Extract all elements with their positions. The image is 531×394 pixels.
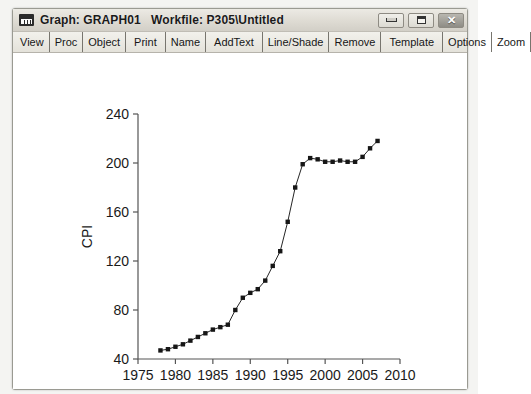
y-axis-tick-label: 160 [106,204,130,220]
toolbar-button-addtext[interactable]: AddText [206,32,263,52]
series-marker [263,278,267,282]
series-marker [196,335,200,339]
series-marker [166,347,170,351]
series-marker [286,220,290,224]
toolbar-button-template[interactable]: Template [381,32,443,52]
y-axis-tick-label: 120 [106,253,130,269]
series-line-cpi [160,141,377,350]
maximize-icon [417,16,426,24]
y-axis-tick-label: 200 [106,155,130,171]
x-axis-tick-label: 1995 [272,367,303,383]
close-icon: ✕ [447,15,456,26]
minimize-icon [386,18,397,22]
y-axis-tick-label: 240 [106,106,130,122]
x-axis-tick-label: 2005 [347,367,378,383]
series-marker [181,342,185,346]
window-controls: ✕ [378,13,464,28]
y-axis-tick-label: 80 [113,302,129,318]
series-marker [338,158,342,162]
cpi-line-chart: 4080120160200240197519801985199019952000… [13,54,465,389]
graph-toolbar: View Proc Object Print Name AddText Line… [13,32,467,53]
x-axis-tick-label: 2000 [310,367,341,383]
series-marker [315,157,319,161]
series-marker [218,325,222,329]
series-marker [330,160,334,164]
series-marker [211,327,215,331]
series-marker [158,348,162,352]
x-axis-tick-label: 1980 [160,367,191,383]
series-marker [345,160,349,164]
series-marker [323,160,327,164]
x-axis-tick-label: 1990 [235,367,266,383]
series-marker [300,162,304,166]
graph-window-icon [19,14,34,26]
minimize-button[interactable] [378,13,404,28]
series-marker [248,291,252,295]
x-axis-tick-label: 1975 [122,367,153,383]
series-marker [226,323,230,327]
maximize-button[interactable] [408,13,434,28]
x-axis-tick-label: 1985 [197,367,228,383]
toolbar-button-zoom[interactable]: Zoom [492,32,531,52]
graph-client-area[interactable]: 4080120160200240197519801985199019952000… [13,53,467,389]
series-marker [271,264,275,268]
toolbar-button-name[interactable]: Name [166,32,206,52]
toolbar-button-options[interactable]: Options [443,32,492,52]
y-axis-label: CPI [79,225,95,248]
series-marker [308,156,312,160]
chart-axis-frame [138,114,400,359]
series-marker [375,139,379,143]
close-button[interactable]: ✕ [438,13,464,28]
toolbar-button-object[interactable]: Object [83,32,126,52]
series-marker [188,338,192,342]
series-marker [353,160,357,164]
toolbar-button-view[interactable]: View [15,32,50,52]
toolbar-button-line-shade[interactable]: Line/Shade [263,32,330,52]
series-marker [256,287,260,291]
series-marker [278,249,282,253]
series-marker [203,331,207,335]
series-marker [360,155,364,159]
toolbar-button-print[interactable]: Print [126,32,166,52]
toolbar-button-proc[interactable]: Proc [50,32,84,52]
window-titlebar[interactable]: Graph: GRAPH01 Workfile: P305\Untitled ✕ [13,9,467,32]
toolbar-button-remove[interactable]: Remove [329,32,381,52]
series-marker [368,146,372,150]
series-marker [241,296,245,300]
graph-window: Graph: GRAPH01 Workfile: P305\Untitled ✕… [12,8,468,390]
series-marker [293,185,297,189]
series-marker [173,345,177,349]
series-marker [233,308,237,312]
x-axis-tick-label: 2010 [384,367,415,383]
y-axis-tick-label: 40 [113,351,129,367]
window-title: Graph: GRAPH01 Workfile: P305\Untitled [40,13,284,27]
